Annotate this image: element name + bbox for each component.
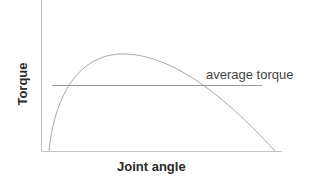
average-torque-label: average torque bbox=[206, 67, 293, 82]
y-axis-label: Torque bbox=[15, 54, 31, 114]
torque-angle-chart bbox=[0, 0, 325, 177]
x-axis-label: Joint angle bbox=[117, 159, 186, 174]
